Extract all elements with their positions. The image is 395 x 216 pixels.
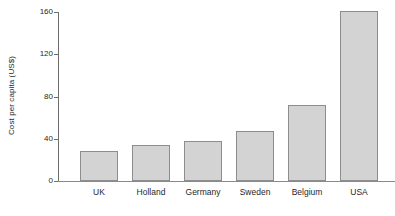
y-tick-label: 0 — [49, 177, 53, 185]
bar-uk — [80, 151, 118, 181]
bar-usa — [340, 11, 378, 181]
bar-chart-figure: Cost per capita (US$) 0 40 80 120 160 UK — [0, 0, 395, 216]
y-tick-mark — [54, 12, 58, 13]
y-tick-label: 120 — [40, 50, 53, 58]
bar-label-uk: UK — [80, 187, 118, 197]
y-tick-mark — [54, 181, 58, 182]
y-tick-label: 160 — [40, 8, 53, 16]
y-tick-mark — [54, 54, 58, 55]
bar-label-sweden: Sweden — [231, 187, 279, 197]
y-tick-mark — [54, 139, 58, 140]
plot-area: 0 40 80 120 160 UK Holland Germany Swede… — [58, 12, 395, 181]
x-axis-baseline — [58, 181, 395, 182]
y-tick-label: 80 — [44, 93, 53, 101]
bar-label-usa: USA — [336, 187, 382, 197]
bar-holland — [132, 145, 170, 181]
y-axis-label-text: Cost per capita (US$) — [8, 55, 17, 134]
bar-sweden — [236, 131, 274, 181]
bar-label-holland: Holland — [128, 187, 174, 197]
y-tick-label: 40 — [44, 135, 53, 143]
bar-label-belgium: Belgium — [283, 187, 331, 197]
y-axis-label: Cost per capita (US$) — [0, 0, 24, 190]
bar-belgium — [288, 105, 326, 181]
bar-germany — [184, 141, 222, 181]
y-axis-spine — [58, 12, 59, 181]
bar-label-germany: Germany — [178, 187, 228, 197]
y-tick-mark — [54, 97, 58, 98]
